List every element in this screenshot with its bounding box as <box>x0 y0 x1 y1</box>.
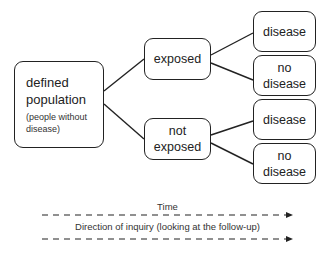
outcome-label: disease <box>263 24 306 40</box>
exposed-disease-box: disease <box>253 11 316 52</box>
outcome-label: no <box>278 148 292 164</box>
group-label: exposed <box>154 139 201 155</box>
not-exposed-box: not exposed <box>144 118 211 160</box>
outcome-label: disease <box>263 112 306 128</box>
population-title: defined population <box>26 74 86 108</box>
title-line: population <box>26 91 86 108</box>
exposed-no-disease-box: no disease <box>253 55 316 96</box>
time-label: Time <box>0 201 335 212</box>
population-subtitle: (people without disease) <box>26 111 87 135</box>
group-label: exposed <box>154 51 201 67</box>
subtitle-line: disease) <box>26 123 87 135</box>
outcome-label: disease <box>263 164 306 180</box>
subtitle-line: (people without <box>26 111 87 123</box>
group-label: not <box>169 123 186 139</box>
arrowhead-icon <box>286 212 293 218</box>
title-line: defined <box>26 74 86 91</box>
exposed-box: exposed <box>144 38 211 80</box>
not-exposed-no-disease-box: no disease <box>253 143 316 184</box>
defined-population-box: defined population (people without disea… <box>14 61 104 148</box>
inquiry-direction-label: Direction of inquiry (looking at the fol… <box>0 221 335 232</box>
arrowhead-icon <box>286 236 293 242</box>
outcome-label: disease <box>263 76 306 92</box>
outcome-label: no <box>278 60 292 76</box>
not-exposed-disease-box: disease <box>253 99 316 140</box>
